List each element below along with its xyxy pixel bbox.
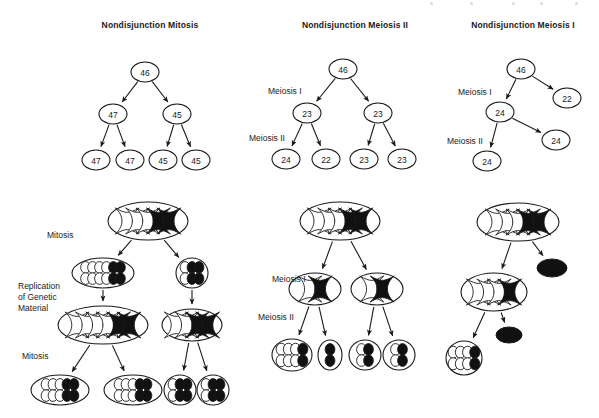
cell-diagram: [58, 306, 148, 344]
cell-diagram: [318, 340, 342, 370]
stage-label: Meiosis II: [447, 136, 483, 148]
cell-diagrams-layer: [31, 202, 567, 405]
cell-diagram: [349, 340, 381, 370]
polar-body: [496, 327, 522, 343]
stage-label: Meiosis I: [458, 87, 492, 99]
count-node: 23: [350, 149, 378, 169]
cell-diagram: [164, 375, 196, 405]
svg-text:23: 23: [397, 155, 407, 165]
svg-text:23: 23: [302, 109, 312, 119]
count-node: 23: [388, 149, 416, 169]
stage-label: Replication: [18, 281, 60, 293]
svg-text:45: 45: [172, 110, 182, 120]
count-node: 46: [131, 62, 159, 82]
count-node: 45: [182, 150, 210, 170]
svg-text:47: 47: [108, 110, 118, 120]
count-node: 24: [542, 130, 570, 150]
stage-label: Meiosis II: [258, 312, 294, 324]
count-node: 45: [163, 104, 191, 124]
diagram-artwork: 46474547474545462323242223234622242424: [0, 0, 599, 418]
stage-label: of Genetic: [18, 292, 57, 304]
cell-diagram: [300, 202, 380, 240]
count-node: 23: [364, 103, 392, 123]
count-node: 47: [99, 104, 127, 124]
svg-text:24: 24: [482, 157, 492, 167]
stage-label: Meiosis II: [249, 133, 285, 145]
svg-text:24: 24: [551, 136, 561, 146]
stage-label: Mitosis: [22, 351, 48, 363]
scan-fleck: [575, 2, 578, 5]
cell-diagram: [104, 375, 162, 405]
scan-fleck: [470, 2, 473, 5]
stage-label: Mitosis: [47, 230, 73, 242]
svg-text:23: 23: [373, 109, 383, 119]
svg-text:47: 47: [125, 156, 135, 166]
cell-diagram: [446, 341, 482, 375]
polar-body: [537, 259, 567, 277]
cell-diagram: [108, 202, 188, 240]
column-title-mitosis: Nondisjunction Mitosis: [40, 20, 260, 30]
count-node: 22: [553, 88, 581, 108]
svg-text:45: 45: [191, 156, 201, 166]
stage-label: Meiosis I: [268, 86, 302, 98]
cell-diagram: [461, 273, 527, 311]
count-node: 45: [149, 150, 177, 170]
count-node: 22: [312, 149, 340, 169]
cell-diagram: [176, 258, 208, 288]
cell-diagram: [272, 339, 312, 371]
count-nodes-layer: 46474547474545462323242223234622242424: [82, 59, 581, 171]
svg-text:23: 23: [359, 155, 369, 165]
figure-canvas: 46474547474545462323242223234622242424 N…: [0, 0, 599, 418]
svg-text:45: 45: [158, 156, 168, 166]
cell-diagram: [383, 340, 415, 370]
count-node: 46: [507, 59, 535, 79]
column-title-meiosis1: Nondisjunction Meiosis I: [413, 20, 599, 30]
cell-diagram: [162, 309, 222, 341]
stage-label: Meiosis I: [272, 274, 306, 286]
count-node: 47: [82, 150, 110, 170]
count-node: 24: [272, 149, 300, 169]
count-node: 47: [116, 150, 144, 170]
stage-label: Material: [18, 303, 48, 315]
svg-text:24: 24: [495, 108, 505, 118]
svg-text:46: 46: [516, 65, 526, 75]
svg-text:22: 22: [562, 94, 572, 104]
count-node: 46: [329, 59, 357, 79]
scan-fleck: [512, 2, 515, 5]
cell-diagram: [72, 258, 134, 288]
count-node: 24: [473, 151, 501, 171]
cell-diagram: [477, 203, 559, 241]
cell-diagram: [351, 273, 403, 305]
svg-text:47: 47: [91, 156, 101, 166]
cell-diagram: [197, 375, 229, 405]
cell-diagram: [31, 375, 89, 405]
scan-fleck: [430, 2, 433, 5]
scan-fleck: [540, 2, 543, 5]
svg-text:46: 46: [140, 68, 150, 78]
svg-text:24: 24: [281, 155, 291, 165]
svg-text:22: 22: [321, 155, 331, 165]
count-node: 24: [486, 102, 514, 122]
svg-text:46: 46: [338, 65, 348, 75]
count-node: 23: [293, 103, 321, 123]
